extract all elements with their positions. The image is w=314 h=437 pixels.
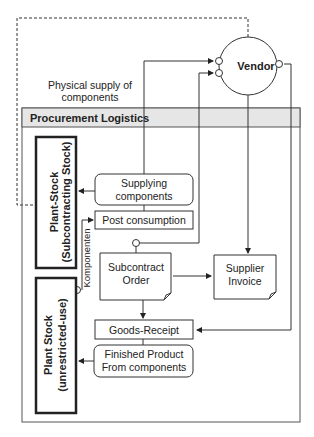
post-consumption-box[interactable]: Post consumption bbox=[95, 211, 193, 229]
unrestricted-stock-line1: Plant Stock bbox=[42, 314, 54, 375]
unrestricted-stock-line2: (unrestricted-use) bbox=[56, 298, 68, 392]
plant-stock-subcontracting[interactable]: Plant-Stock (Subcontracting Stock) bbox=[36, 137, 76, 268]
goods-receipt-box[interactable]: Goods-Receipt bbox=[95, 320, 193, 339]
vendor-node[interactable]: Vendor bbox=[219, 37, 277, 95]
subcontract-order-line1: Subcontract bbox=[108, 261, 164, 273]
supplier-invoice-document[interactable]: Supplier Invoice bbox=[214, 255, 276, 299]
vendor-input-port-2 bbox=[216, 70, 223, 77]
plant-stock-unrestricted[interactable]: Plant Stock (unrestricted-use) bbox=[36, 278, 76, 413]
supplying-line1: Supplying bbox=[121, 177, 167, 189]
supplier-invoice-line2: Invoice bbox=[228, 275, 261, 287]
subcontract-order-line2: Order bbox=[123, 274, 150, 286]
vendor-input-port-1 bbox=[216, 58, 223, 65]
komponenten-label: Komponenten bbox=[81, 228, 92, 287]
container-title: Procurement Logistics bbox=[30, 112, 149, 124]
supplier-invoice-line1: Supplier bbox=[226, 262, 265, 274]
physical-supply-line1: Physical supply of bbox=[48, 79, 132, 91]
supplying-line2: components bbox=[115, 190, 172, 202]
subcontracting-stock-line1: Plant-Stock bbox=[48, 171, 60, 232]
vendor-output-port bbox=[276, 61, 283, 68]
goods-receipt-label: Goods-Receipt bbox=[109, 324, 179, 336]
subcontracting-stock-line2: (Subcontracting Stock) bbox=[60, 141, 72, 262]
finished-product-line2: From components bbox=[102, 361, 187, 373]
order-port bbox=[133, 240, 140, 247]
supplying-components-box[interactable]: Supplying components bbox=[95, 174, 193, 205]
finished-product-line1: Finished Product bbox=[105, 348, 184, 360]
physical-supply-line2: components bbox=[61, 91, 118, 103]
subcontract-order-document[interactable]: Subcontract Order bbox=[100, 253, 171, 300]
procurement-diagram: Procurement Logistics Vendor Physical su… bbox=[0, 0, 314, 437]
vendor-label: Vendor bbox=[237, 60, 275, 72]
post-consumption-label: Post consumption bbox=[102, 214, 186, 226]
finished-product-box[interactable]: Finished Product From components bbox=[94, 345, 193, 377]
